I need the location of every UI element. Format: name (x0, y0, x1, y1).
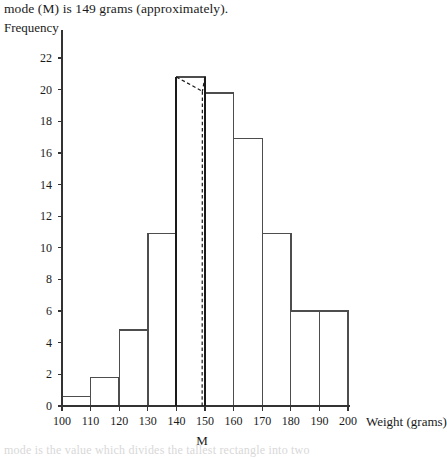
histogram-bar (291, 311, 320, 406)
footer-text: mode is the value which divides the tall… (4, 443, 310, 458)
x-axis-tick-label: 140 (161, 415, 191, 427)
y-axis-tick-label: 12 (26, 210, 52, 222)
x-axis-tick-label: 130 (133, 415, 163, 427)
y-axis-tick-label: 20 (26, 84, 52, 96)
x-axis-tick-label: 100 (47, 415, 77, 427)
x-axis-tick-label: 110 (76, 415, 106, 427)
y-axis-tick-label: 10 (26, 242, 52, 254)
y-axis-tick-label: 18 (26, 115, 52, 127)
y-axis-tick-label: 16 (26, 147, 52, 159)
x-axis-title: Weight (grams) (366, 414, 447, 430)
histogram-bar (262, 234, 291, 406)
y-axis-tick-label: 0 (26, 400, 52, 412)
histogram-bar (234, 139, 263, 406)
histogram-bar (62, 397, 91, 406)
y-axis-tick-label: 14 (26, 179, 52, 191)
x-axis-tick-label: 170 (247, 415, 277, 427)
y-axis-tick-label: 2 (26, 368, 52, 380)
y-axis-tick-label: 22 (26, 52, 52, 64)
histogram-bar (91, 378, 120, 406)
histogram-bar (205, 93, 234, 406)
y-axis-tick-label: 6 (26, 305, 52, 317)
x-axis-tick-label: 160 (219, 415, 249, 427)
x-axis-tick-label: 120 (104, 415, 134, 427)
x-axis-tick-label: 190 (304, 415, 334, 427)
histogram-bar (319, 311, 348, 406)
histogram-bar (176, 77, 205, 406)
histogram-bar (148, 234, 177, 406)
y-axis-tick-label: 8 (26, 273, 52, 285)
y-axis-title: Frequency (4, 20, 59, 36)
histogram-bar (119, 330, 148, 406)
y-axis-tick-label: 4 (26, 337, 52, 349)
x-axis-tick-label: 180 (276, 415, 306, 427)
x-axis-tick-label: 150 (190, 415, 220, 427)
x-axis-tick-label: 200 (333, 415, 363, 427)
